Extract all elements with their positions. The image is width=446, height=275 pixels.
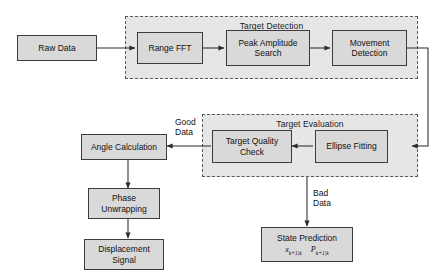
diagram-canvas: Target Detection Target Evaluation bbox=[0, 0, 446, 275]
node-ellipse-fitting-label: Ellipse Fitting bbox=[326, 141, 377, 151]
node-peak-amplitude-search-label2: Search bbox=[255, 48, 282, 58]
node-angle-calculation[interactable]: Angle Calculation bbox=[81, 134, 167, 160]
node-state-prediction[interactable]: State Prediction xk+1|kPk+1|k bbox=[261, 227, 353, 262]
node-raw-data-label: Raw Data bbox=[38, 43, 75, 53]
edge-label-bad-data-line2: Data bbox=[313, 198, 331, 208]
node-displacement-signal[interactable]: Displacement Signal bbox=[84, 239, 164, 270]
node-angle-calculation-label: Angle Calculation bbox=[91, 142, 157, 152]
state-x-subscript: k+1|k bbox=[289, 250, 302, 256]
node-displacement-signal-label2: Signal bbox=[112, 255, 136, 265]
edge-label-bad-data: Bad Data bbox=[313, 188, 331, 208]
node-ellipse-fitting[interactable]: Ellipse Fitting bbox=[315, 130, 388, 163]
edge-label-good-data: Good Data bbox=[175, 117, 196, 137]
node-target-quality-check[interactable]: Target Quality Check bbox=[212, 130, 292, 163]
node-movement-detection-label: Movement bbox=[350, 38, 390, 48]
node-target-quality-check-label: Target Quality bbox=[226, 136, 278, 146]
node-movement-detection[interactable]: Movement Detection bbox=[332, 30, 407, 66]
node-phase-unwrapping-label: Phase bbox=[112, 193, 136, 203]
node-state-prediction-label: State Prediction bbox=[277, 233, 337, 243]
node-movement-detection-label2: Detection bbox=[352, 48, 388, 58]
node-phase-unwrapping[interactable]: Phase Unwrapping bbox=[88, 188, 160, 219]
node-peak-amplitude-search-label: Peak Amplitude bbox=[238, 38, 297, 48]
edge-label-bad-data-line1: Bad bbox=[313, 188, 328, 198]
edge-label-good-data-line1: Good bbox=[175, 117, 196, 127]
edge-label-good-data-line2: Data bbox=[175, 127, 193, 137]
node-target-quality-check-label2: Check bbox=[240, 147, 264, 157]
state-p-subscript: k+1|k bbox=[316, 250, 329, 256]
node-range-fft[interactable]: Range FFT bbox=[137, 32, 203, 64]
wire-movement-to-ellipse bbox=[407, 48, 428, 146]
node-raw-data[interactable]: Raw Data bbox=[17, 35, 97, 61]
node-displacement-signal-label: Displacement bbox=[98, 244, 150, 254]
node-range-fft-label: Range FFT bbox=[149, 43, 192, 53]
node-state-prediction-formula: xk+1|kPk+1|k bbox=[285, 245, 329, 256]
node-peak-amplitude-search[interactable]: Peak Amplitude Search bbox=[226, 30, 310, 66]
node-phase-unwrapping-label2: Unwrapping bbox=[101, 204, 146, 214]
